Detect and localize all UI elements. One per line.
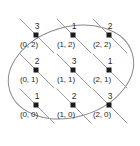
point-coordinate-label: (2, 1): [93, 75, 111, 84]
lattice-ellipse-figure: 3(0, 2)1(1, 2)2(2, 2)2(0, 1)3(1, 1)1(2, …: [0, 0, 140, 146]
lattice-point-dot: [107, 103, 112, 108]
point-value-label: 1: [35, 91, 40, 101]
lattice-point-dot: [107, 68, 112, 73]
point-value-label: 3: [35, 21, 40, 31]
lattice-point-dot: [107, 33, 112, 38]
point-coordinate-label: (0, 2): [20, 40, 38, 49]
point-coordinate-label: (2, 0): [93, 110, 111, 119]
lattice-point-dot: [34, 103, 39, 108]
lattice-point-dot: [71, 68, 76, 73]
point-coordinate-label: (0, 1): [20, 75, 38, 84]
point-value-label: 2: [108, 21, 113, 31]
figure-vector-layer: [0, 0, 140, 146]
point-coordinate-label: (0, 0): [20, 110, 38, 119]
point-value-label: 2: [35, 56, 40, 66]
point-value-label: 3: [108, 91, 113, 101]
point-value-label: 1: [108, 56, 113, 66]
lattice-point-dot: [71, 103, 76, 108]
point-value-label: 1: [72, 21, 77, 31]
point-coordinate-label: (2, 2): [93, 40, 111, 49]
lattice-point-dot: [71, 33, 76, 38]
lattice-point-dot: [34, 68, 39, 73]
point-coordinate-label: (1, 2): [57, 40, 75, 49]
point-coordinate-label: (1, 0): [57, 110, 75, 119]
point-coordinate-label: (1, 1): [57, 75, 75, 84]
lattice-point-dot: [34, 33, 39, 38]
point-value-label: 2: [72, 91, 77, 101]
point-value-label: 3: [72, 56, 77, 66]
